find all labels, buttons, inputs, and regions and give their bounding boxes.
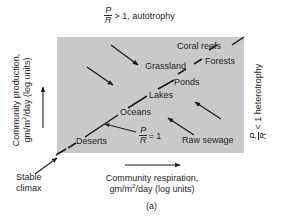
arrow-pr-equal-one xyxy=(105,124,136,132)
label-ponds: Ponds xyxy=(174,77,200,87)
label-coral-reefs: Coral reefs xyxy=(177,41,221,51)
figure-caption: (a) xyxy=(146,201,157,211)
y-axis-title: Community production, gm/m2/day (log uni… xyxy=(11,52,33,148)
label-forests: Forests xyxy=(205,56,235,66)
heterotrophy-label: P R < 1 heterotrophy xyxy=(250,40,266,140)
label-oceans: Oceans xyxy=(120,107,151,117)
label-lakes: Lakes xyxy=(149,90,173,100)
p-over-r-fraction: P R xyxy=(139,126,148,145)
label-raw-sewage: Raw sewage xyxy=(182,135,234,145)
arrow-heterotrophic-upper xyxy=(195,102,221,119)
arrow-heterotrophic-lower xyxy=(168,118,194,135)
x-axis-title: Community respiration, gm/m2/day (log un… xyxy=(92,173,212,195)
pr-ratio-diagram: P R > 1, autotrophy xyxy=(0,0,290,223)
arrow-autotrophic-lower xyxy=(87,67,113,85)
arrow-autotrophic-upper xyxy=(111,45,138,65)
label-grassland: Grassland xyxy=(145,61,186,71)
p-over-r-fraction: P R xyxy=(249,132,268,141)
label-deserts: Deserts xyxy=(76,136,107,146)
pr-equal-one-label: P R = 1 xyxy=(139,126,161,145)
stable-climax-label: Stable climax xyxy=(16,172,42,194)
